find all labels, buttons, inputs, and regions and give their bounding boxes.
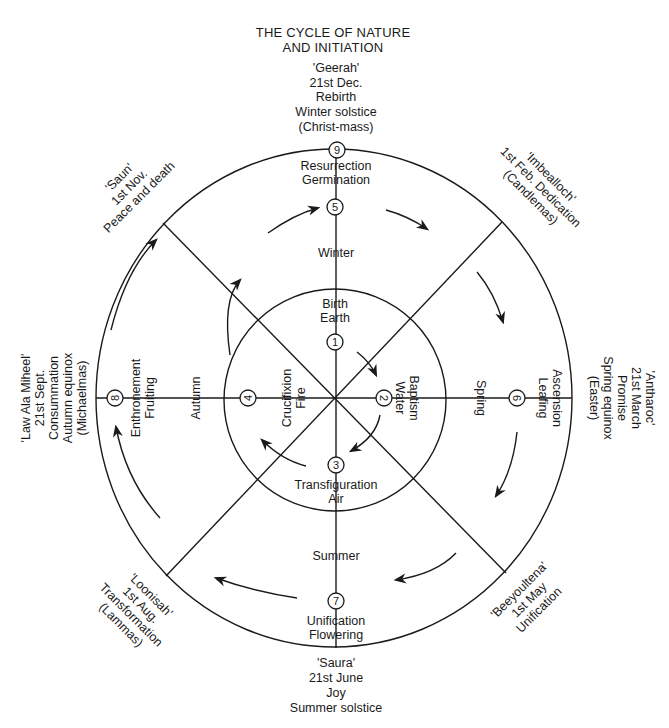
svg-text:Ascension: Ascension <box>550 369 564 427</box>
svg-text:'Antharoc': 'Antharoc' <box>643 371 657 426</box>
node-3: 3 <box>328 457 344 473</box>
arrow-icon <box>351 415 380 451</box>
label-node-7: Unification Flowering <box>307 614 365 642</box>
label-node-1: Birth Earth <box>320 297 350 325</box>
festival-aug: 'Loonisah' 1st Aug. Transformation (Lamm… <box>87 561 186 660</box>
diagram-title-line-1: THE CYCLE OF NATURE <box>256 25 411 40</box>
season-spring: Spring <box>474 380 488 416</box>
diagram-title-line-2: AND INITIATION <box>283 40 384 55</box>
svg-text:Unification: Unification <box>307 614 365 628</box>
svg-text:21st Dec.: 21st Dec. <box>310 76 363 90</box>
diagonal-ne-sw <box>166 222 502 576</box>
svg-text:3: 3 <box>333 459 339 471</box>
svg-text:Baptism: Baptism <box>407 375 421 420</box>
svg-text:Autumn equinox: Autumn equinox <box>61 352 75 443</box>
flow-arrows <box>111 208 517 598</box>
svg-text:4: 4 <box>242 395 254 401</box>
festival-nov: 'Saun' 1st Nov. Peace and death <box>81 139 178 236</box>
season-autumn: Autumn <box>189 376 203 419</box>
svg-text:21st June: 21st June <box>309 671 363 685</box>
svg-text:Promise: Promise <box>615 375 629 421</box>
arrow-icon <box>496 432 517 496</box>
node-2: 2 <box>376 390 392 406</box>
svg-text:Winter solstice: Winter solstice <box>295 105 376 119</box>
node-4: 4 <box>240 390 256 406</box>
svg-text:Consummation: Consummation <box>47 356 61 440</box>
arrow-icon <box>111 240 156 330</box>
svg-text:Rebirth: Rebirth <box>316 90 356 104</box>
svg-text:Transfiguration: Transfiguration <box>295 478 378 492</box>
festival-summer-solstice: 'Saura' 21st June Joy Summer solstice <box>290 656 382 715</box>
svg-text:7: 7 <box>333 595 339 607</box>
svg-text:Enthronement: Enthronement <box>129 358 143 437</box>
season-summer: Summer <box>312 549 359 563</box>
festival-autumn-equinox: 'Law Ala Miheel' 21st Sept. Consummation… <box>19 352 89 443</box>
svg-text:Fruiting: Fruiting <box>143 377 157 419</box>
label-node-2: Baptism Water <box>393 375 421 420</box>
label-node-6: Ascension Leafing <box>536 369 564 427</box>
svg-text:Leafing: Leafing <box>536 377 550 418</box>
svg-text:'Saura': 'Saura' <box>317 656 355 670</box>
svg-text:Air: Air <box>328 492 343 506</box>
svg-text:Summer solstice: Summer solstice <box>290 701 382 715</box>
arrow-icon <box>268 208 318 233</box>
cycle-diagram: THE CYCLE OF NATURE AND INITIATION 'Geer… <box>0 0 669 728</box>
svg-text:6: 6 <box>511 395 523 401</box>
svg-text:21st Sept.: 21st Sept. <box>33 370 47 426</box>
node-1: 1 <box>327 334 343 350</box>
arrow-icon <box>386 210 427 229</box>
arrow-icon <box>216 578 297 598</box>
svg-text:8: 8 <box>109 395 121 401</box>
svg-text:1: 1 <box>332 336 338 348</box>
svg-text:5: 5 <box>332 201 338 213</box>
svg-text:9: 9 <box>334 144 340 156</box>
svg-text:'Geerah': 'Geerah' <box>313 61 359 75</box>
arrow-icon <box>262 440 306 466</box>
svg-text:2: 2 <box>378 395 390 401</box>
svg-text:Germination: Germination <box>302 173 370 187</box>
svg-text:(Michaelmas): (Michaelmas) <box>75 360 89 435</box>
svg-text:Fire: Fire <box>294 387 308 409</box>
svg-text:Resurrection: Resurrection <box>301 159 372 173</box>
svg-text:Joy: Joy <box>326 686 346 700</box>
svg-text:Water: Water <box>393 382 407 415</box>
svg-text:Spring equinox: Spring equinox <box>601 356 615 440</box>
arrow-icon <box>396 553 456 580</box>
arrow-icon <box>477 272 503 322</box>
festival-may: 'Beeyoultena' 1st May Unification <box>488 559 570 641</box>
node-8: 8 <box>107 390 123 406</box>
svg-text:(Christ-mass): (Christ-mass) <box>299 120 374 134</box>
label-node-5: Resurrection Germination <box>301 159 372 187</box>
node-9: 9 <box>329 142 345 158</box>
svg-text:(Easter): (Easter) <box>587 376 601 420</box>
label-node-8: Enthronement Fruiting <box>129 358 157 437</box>
svg-text:21st March: 21st March <box>629 367 643 429</box>
svg-text:Birth: Birth <box>322 297 348 311</box>
svg-text:Crucifixion: Crucifixion <box>280 369 294 427</box>
svg-text:Flowering: Flowering <box>309 628 363 642</box>
season-winter: Winter <box>318 246 354 260</box>
label-node-3: Transfiguration Air <box>295 478 378 506</box>
svg-text:Earth: Earth <box>320 311 350 325</box>
node-5: 5 <box>327 199 343 215</box>
festival-winter-solstice: 'Geerah' 21st Dec. Rebirth Winter solsti… <box>295 61 376 134</box>
node-7: 7 <box>328 593 344 609</box>
node-6: 6 <box>509 390 525 406</box>
arrow-icon <box>116 427 160 518</box>
festival-spring-equinox: 'Antharoc' 21st March Promise Spring equ… <box>587 356 657 440</box>
label-node-4: Crucifixion Fire <box>280 369 308 427</box>
svg-text:'Law Ala Miheel': 'Law Ala Miheel' <box>19 354 33 443</box>
